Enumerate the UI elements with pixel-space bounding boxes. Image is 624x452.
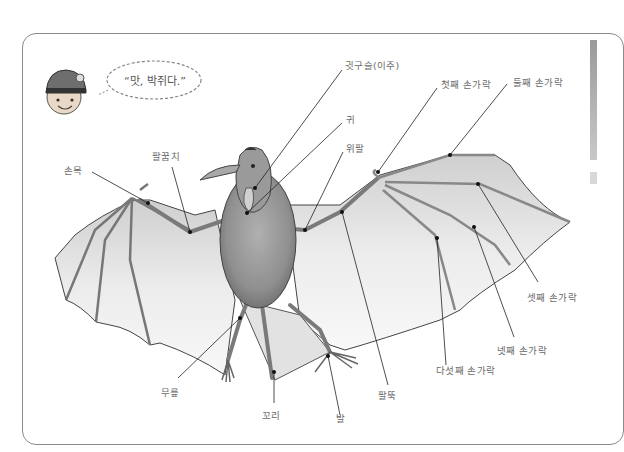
label-wrist: 손목: [64, 163, 83, 177]
label-forearm: 팔뚝: [378, 388, 397, 402]
bat-head: [236, 147, 271, 212]
label-second-finger: 둘째 손가락: [513, 75, 563, 89]
label-knee: 무릎: [161, 385, 180, 399]
label-third-finger: 셋째 손가락: [527, 290, 577, 304]
label-ear: 귀: [346, 112, 355, 126]
explorer-character: [46, 70, 86, 114]
label-foot: 발: [336, 411, 345, 425]
right-wing: [285, 155, 570, 350]
label-upper-arm: 위팔: [346, 141, 365, 155]
label-tail: 꼬리: [262, 408, 281, 422]
label-fifth-finger: 다섯째 손가락: [436, 363, 495, 377]
label-fourth-finger: 넷째 손가락: [497, 343, 547, 357]
label-ear-tragus: 귓구슬(이주): [345, 58, 400, 72]
label-elbow: 팔꿈치: [152, 149, 180, 163]
label-first-finger: 첫째 손가락: [441, 77, 491, 91]
speech-bubble-text: “맛, 박쥐다.”: [124, 72, 186, 88]
